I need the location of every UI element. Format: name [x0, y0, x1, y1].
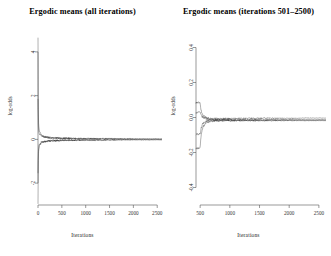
svg-text:2500: 2500 [152, 210, 163, 216]
svg-text:4: 4 [30, 50, 36, 53]
svg-text:0.4: 0.4 [188, 44, 194, 51]
svg-text:1000: 1000 [81, 210, 92, 216]
plot-panel-all-iterations: Ergodic means (all iterations) -20240500… [0, 0, 165, 256]
svg-text:0: 0 [37, 210, 40, 216]
svg-text:-0.2: -0.2 [188, 148, 194, 157]
svg-text:2000: 2000 [284, 210, 295, 216]
svg-text:1000: 1000 [225, 210, 236, 216]
plot-canvas-left: -202405001000150020002500 [0, 0, 165, 256]
x-axis-label-right: Iterations [166, 232, 331, 238]
x-axis-label-left: Iterations [0, 232, 165, 238]
svg-text:0.2: 0.2 [188, 79, 194, 86]
svg-text:2: 2 [30, 94, 36, 97]
plot-panel-burnin-removed: Ergodic means (iterations 501–2500) -0.4… [166, 0, 331, 256]
svg-text:-2: -2 [30, 181, 36, 186]
svg-text:2500: 2500 [314, 210, 325, 216]
svg-text:1500: 1500 [104, 210, 115, 216]
svg-text:2000: 2000 [128, 210, 139, 216]
svg-text:-0.4: -0.4 [188, 183, 194, 192]
svg-text:500: 500 [196, 210, 204, 216]
figure-root: Ergodic means (all iterations) -20240500… [0, 0, 331, 256]
svg-text:1500: 1500 [254, 210, 265, 216]
svg-text:0: 0 [30, 138, 36, 141]
y-axis-label-left: log-odds [7, 96, 13, 115]
svg-text:0.0: 0.0 [188, 114, 194, 121]
y-axis-label-right: log-odds [170, 96, 176, 115]
plot-canvas-right: -0.4-0.20.00.20.45001000150020002500 [166, 0, 331, 256]
svg-text:500: 500 [58, 210, 66, 216]
